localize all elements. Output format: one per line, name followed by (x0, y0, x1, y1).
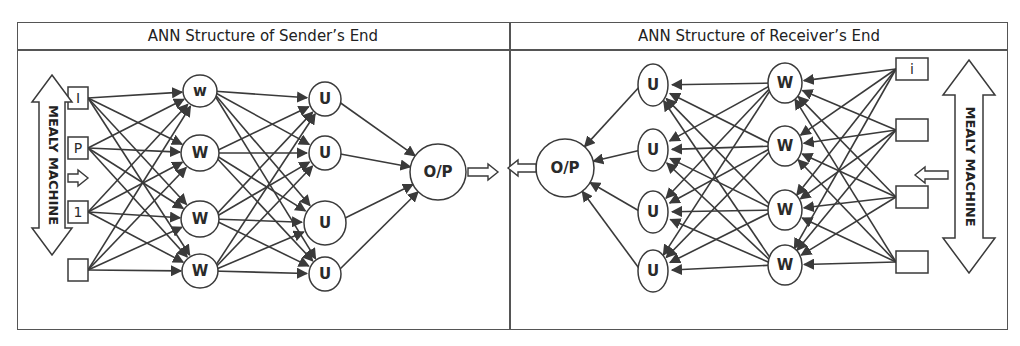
connection-arrow (582, 191, 641, 271)
connection-arrow (335, 99, 415, 156)
sender-w-node-4-label: W (192, 262, 209, 280)
receiver-input-4 (896, 251, 928, 273)
sender-input-3-label: 1 (74, 204, 83, 220)
receiver-u-node-4-label: U (647, 262, 659, 280)
nodes: IP1wWWWUUUUO/PiWWWWUUUUO/P (68, 58, 928, 292)
sender-w-node-3-label: W (192, 210, 209, 228)
connection-arrow (212, 219, 309, 266)
sender-w-node-1-label: w (193, 82, 207, 100)
receiver-w-node-4-label: W (777, 256, 794, 274)
sender-output-arrow (468, 164, 498, 180)
connection-arrow (212, 166, 313, 271)
connection-arrow (590, 183, 641, 212)
receiver-u-node-1-label: U (647, 76, 659, 94)
connection-arrow (335, 184, 413, 223)
sender-w-node-2-label: W (192, 144, 209, 162)
sender-mealy-machine-label: MEALY MACHINE (46, 105, 61, 225)
connection-arrow (212, 91, 309, 144)
receiver-output-node-label: O/P (550, 159, 579, 177)
connection-arrow (804, 262, 896, 264)
receiver-input-3 (896, 186, 928, 208)
connection-arrow (585, 85, 641, 147)
ann-diagram: IP1wWWWUUUUO/PiWWWWUUUUO/P MEALY MACHINE… (0, 0, 1020, 346)
receiver-w-node-1-label: W (777, 74, 794, 92)
receiver-input-arrow (915, 167, 948, 183)
receiver-mealy-machine-label: MEALY MACHINE (963, 106, 978, 226)
connection-arrow (670, 158, 775, 210)
sender-u-node-3-label: U (319, 214, 331, 232)
connection-arrow (212, 271, 307, 274)
connection-arrow (88, 148, 187, 257)
connection-arrow (667, 163, 775, 265)
connection-arrow (88, 106, 190, 270)
connection-arrow (670, 210, 775, 263)
connection-arrow (672, 146, 775, 149)
receiver-input-2 (896, 119, 928, 141)
sender-input-2-label: P (74, 140, 82, 156)
receiver-u-node-2-label: U (647, 141, 659, 159)
connection-arrow (212, 232, 304, 271)
connection-arrow (88, 212, 180, 218)
connection-arrow (212, 91, 310, 206)
sender-u-node-1-label: U (319, 90, 331, 108)
receiver-output-arrow (508, 160, 536, 176)
connection-arrow (672, 265, 775, 270)
receiver-input-1-label: i (910, 61, 914, 77)
sender-output-node-label: O/P (423, 163, 452, 181)
connection-arrow (88, 92, 182, 98)
connection-arrow (802, 154, 896, 197)
receiver-w-node-3-label: W (777, 201, 794, 219)
sender-u-node-4-label: U (319, 265, 331, 283)
connection-arrow (672, 83, 775, 85)
connection-arrow (663, 83, 775, 255)
connection-arrow (335, 153, 410, 167)
connection-arrow (212, 91, 307, 98)
sender-input-1-label: I (76, 90, 80, 106)
connection-arrow (212, 219, 302, 222)
connection-arrow (88, 270, 181, 271)
sender-input-4 (68, 259, 88, 281)
connection-arrow (593, 150, 641, 161)
receiver-u-node-3-label: U (647, 203, 659, 221)
connection-arrow (88, 167, 186, 270)
receiver-w-node-2-label: W (777, 137, 794, 155)
connection-arrow (335, 192, 418, 274)
connection-arrow (672, 210, 775, 212)
sender-u-node-2-label: U (319, 144, 331, 162)
sender-input-arrow (68, 170, 88, 186)
